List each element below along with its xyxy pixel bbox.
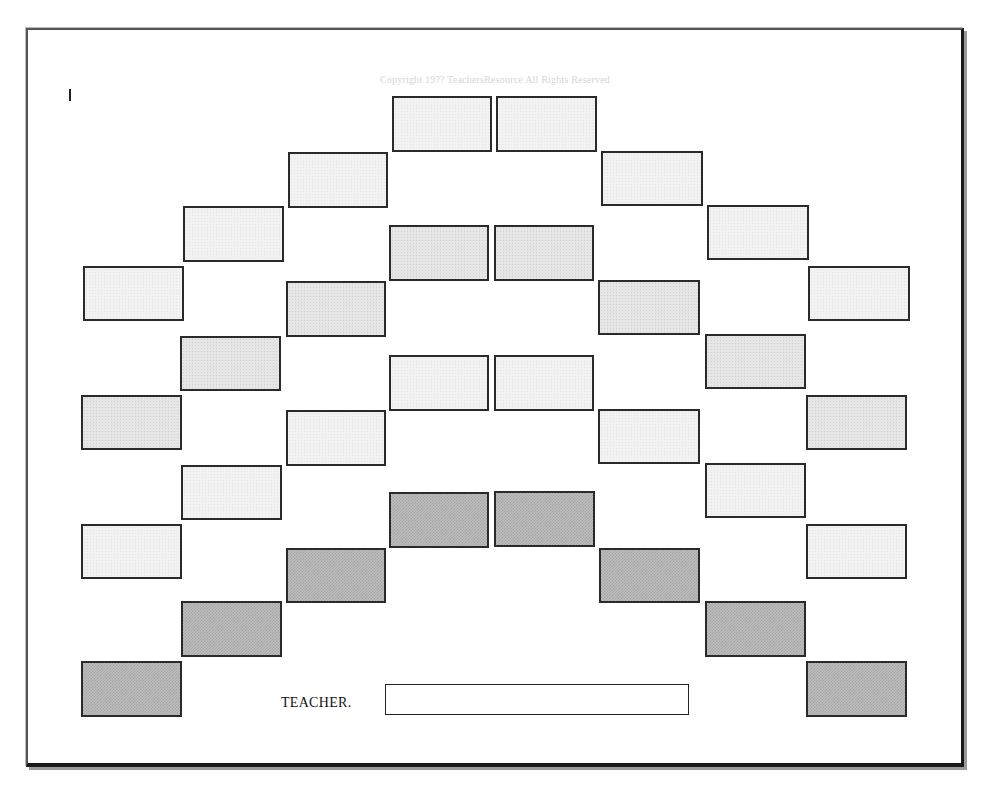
copyright-notice: Copyright 19?? TeachersResource All Righ… <box>350 74 640 85</box>
student-desk[interactable] <box>183 206 284 262</box>
student-desk[interactable] <box>598 280 700 335</box>
student-desk[interactable] <box>81 661 182 717</box>
student-desk[interactable] <box>392 96 492 152</box>
student-desk[interactable] <box>598 409 700 464</box>
student-desk[interactable] <box>181 601 282 657</box>
student-desk[interactable] <box>180 336 281 391</box>
student-desk[interactable] <box>286 548 386 603</box>
student-desk[interactable] <box>389 225 489 281</box>
student-desk[interactable] <box>808 266 910 321</box>
student-desk[interactable] <box>601 151 703 206</box>
teacher-label: TEACHER. <box>281 695 351 711</box>
student-desk[interactable] <box>494 225 594 281</box>
student-desk[interactable] <box>599 548 700 603</box>
student-desk[interactable] <box>705 601 806 657</box>
teacher-name-field[interactable] <box>385 684 689 715</box>
student-desk[interactable] <box>494 355 594 411</box>
student-desk[interactable] <box>288 152 388 208</box>
student-desk[interactable] <box>496 96 597 152</box>
student-desk[interactable] <box>389 492 489 548</box>
student-desk[interactable] <box>81 524 182 579</box>
student-desk[interactable] <box>389 355 489 411</box>
student-desk[interactable] <box>286 281 386 337</box>
student-desk[interactable] <box>806 395 907 450</box>
student-desk[interactable] <box>705 463 806 518</box>
text-cursor-mark <box>69 89 71 101</box>
student-desk[interactable] <box>494 491 595 547</box>
student-desk[interactable] <box>705 334 806 389</box>
student-desk[interactable] <box>181 465 282 520</box>
student-desk[interactable] <box>81 395 182 450</box>
student-desk[interactable] <box>83 266 184 321</box>
student-desk[interactable] <box>806 524 907 579</box>
student-desk[interactable] <box>806 661 907 717</box>
student-desk[interactable] <box>707 205 809 260</box>
student-desk[interactable] <box>286 410 386 466</box>
